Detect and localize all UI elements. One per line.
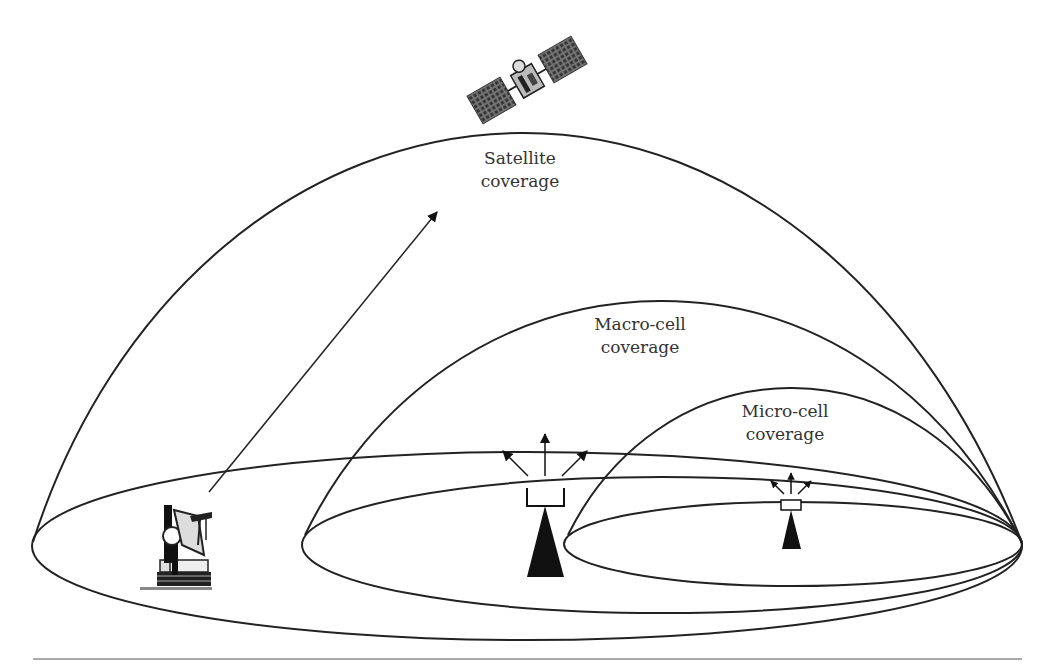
micro-cell-tower-icon — [771, 473, 811, 549]
macro-cell-label-line2: coverage — [601, 337, 680, 357]
macro-cell-label-line1: Macro-cell — [594, 314, 686, 334]
micro-cell-label-line1: Micro-cell — [742, 401, 829, 421]
coverage-diagram: Satellite coverage Macro-cell coverage M… — [0, 0, 1054, 668]
ground-station-dish-icon — [140, 505, 212, 590]
satellite-icon — [464, 31, 587, 124]
satellite-coverage-label-line1: Satellite — [484, 148, 556, 168]
uplink-arrow-icon — [209, 212, 437, 492]
satellite-coverage-ellipse — [32, 452, 1022, 640]
micro-cell-label-line2: coverage — [746, 424, 825, 444]
satellite-coverage-label-line2: coverage — [481, 171, 560, 191]
macro-cell-coverage-ellipse — [302, 477, 1022, 613]
